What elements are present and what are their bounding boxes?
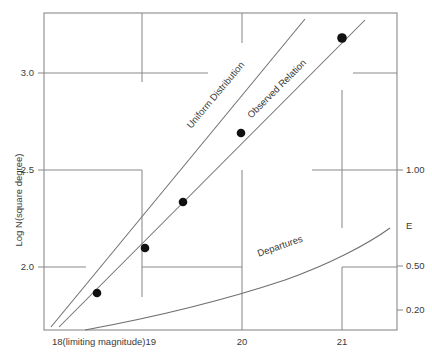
x-axis-title: 18(limiting magnitude)19 [52, 336, 156, 347]
data-point [237, 129, 246, 138]
chart-background [0, 0, 432, 355]
ytick-label-3.0: 3.0 [21, 67, 34, 78]
xtick-label-21: 21 [337, 336, 348, 347]
data-point [337, 33, 347, 43]
data-point [141, 244, 150, 253]
ytick-label-2.0: 2.0 [21, 261, 34, 272]
y2tick-label-1.00: 1.00 [406, 164, 425, 175]
chart-svg: 3.0 2.5 2.0 1.00 0.50 0.20 E 18(limiting… [0, 0, 432, 355]
y2tick-label-0.50: 0.50 [406, 260, 425, 271]
y-axis-title: Log N(square degree) [13, 154, 24, 247]
data-point [179, 198, 188, 207]
right-axis-title: E [406, 220, 412, 231]
data-point [93, 289, 102, 298]
y2tick-label-0.20: 0.20 [406, 304, 425, 315]
figure-container: 3.0 2.5 2.0 1.00 0.50 0.20 E 18(limiting… [0, 0, 432, 355]
xtick-label-20: 20 [237, 336, 248, 347]
